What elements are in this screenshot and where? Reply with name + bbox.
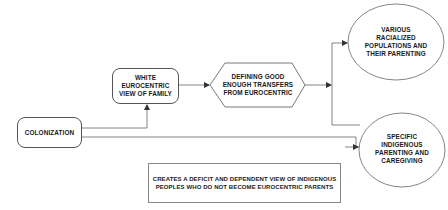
- white-eurocentric-view-node[interactable]: WHITE EUROCENTRIC VIEW OF FAMILY: [112, 68, 179, 104]
- colonization-label: COLONIZATION: [25, 129, 74, 137]
- specific-indigenous-label: SPECIFIC INDIGENOUS PARENTING AND CAREGI…: [375, 133, 429, 165]
- edge-colonization-to-specific: [81, 137, 362, 147]
- colonization-node[interactable]: COLONIZATION: [17, 117, 82, 148]
- defining-good-enough-label: DEFINING GOOD ENOUGH TRANSFERS FROM EURO…: [223, 73, 293, 97]
- deficit-view-label: CREATES A DEFICIT AND DEPENDENT VIEW OF …: [153, 175, 337, 191]
- edge-colonization-to-white-view: [81, 105, 147, 128]
- deficit-view-node[interactable]: CREATES A DEFICIT AND DEPENDENT VIEW OF …: [148, 163, 341, 203]
- specific-indigenous-node[interactable]: SPECIFIC INDIGENOUS PARENTING AND CAREGI…: [362, 122, 442, 176]
- various-racialized-node[interactable]: VARIOUS RACIALIZED POPULATIONS AND THEIR…: [352, 16, 440, 68]
- various-racialized-label: VARIOUS RACIALIZED POPULATIONS AND THEIR…: [365, 26, 428, 58]
- white-eurocentric-view-label: WHITE EUROCENTRIC VIEW OF FAMILY: [119, 74, 172, 98]
- defining-good-enough-node[interactable]: DEFINING GOOD ENOUGH TRANSFERS FROM EURO…: [222, 63, 294, 107]
